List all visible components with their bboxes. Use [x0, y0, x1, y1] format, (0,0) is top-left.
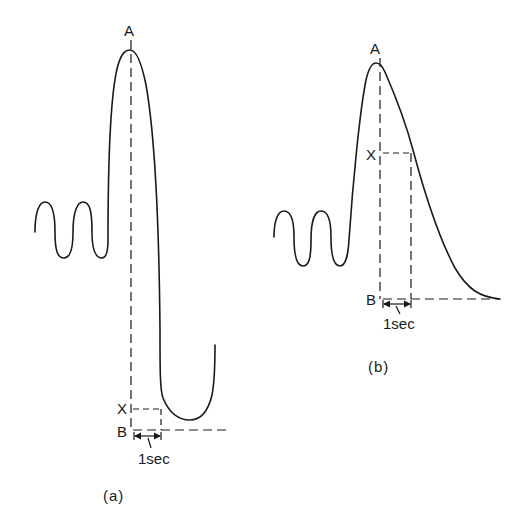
- time-scale-pointer-a: [148, 438, 151, 448]
- peak-label-b: A: [370, 40, 380, 57]
- figure-a: A X B 1sec (a): [35, 22, 228, 504]
- figure-b: A X B 1sec (b): [274, 40, 500, 375]
- x-label-a: X: [117, 400, 127, 417]
- time-scale-label-b: 1sec: [383, 315, 415, 332]
- time-scale-label-a: 1sec: [138, 450, 170, 467]
- waveform-a: [35, 50, 215, 420]
- b-label-a: B: [117, 423, 127, 440]
- caption-a: (a): [103, 487, 124, 504]
- time-scale-pointer-b: [396, 306, 400, 314]
- caption-b: (b): [368, 358, 389, 375]
- waveform-b: [274, 63, 500, 299]
- b-label-b: B: [366, 291, 376, 308]
- peak-label-a: A: [124, 22, 134, 39]
- diagram-canvas: A X B 1sec (a) A X B 1sec (b): [0, 0, 528, 525]
- x-label-b: X: [366, 146, 376, 163]
